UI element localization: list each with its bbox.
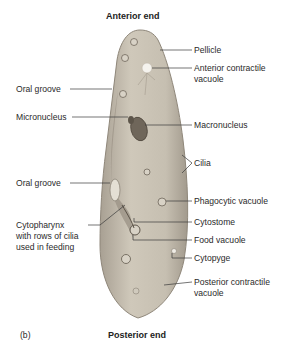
label-cytopharynx-3: used in feeding [16,242,74,252]
label-oral-groove-top: Oral groove [16,84,61,94]
phagocytic-vacuole-shape [158,198,166,206]
oral-groove-pocket [110,179,120,201]
label-posterior-contractile-vacuole-1: Posterior contractile [194,277,270,287]
label-pellicle: Pellicle [194,45,221,55]
label-cytopharynx-1: Cytopharynx [16,220,64,230]
label-anterior-contractile-vacuole-2: vacuole [194,74,224,84]
food-vacuole-shape [130,225,140,235]
label-posterior-contractile-vacuole-2: vacuole [194,288,224,298]
micronucleus-shape [128,116,134,124]
label-anterior-contractile-vacuole-1: Anterior contractile [194,63,266,73]
label-food-vacuole: Food vacuole [194,235,246,245]
label-cytopyge: Cytopyge [194,253,230,263]
label-micronucleus: Micronucleus [16,112,67,122]
label-cytostome: Cytostome [194,217,235,227]
label-phagocytic-vacuole: Phagocytic vacuole [194,196,268,206]
label-cytopharynx-2: with rows of cilia [16,231,79,241]
cytopyge-shape [172,249,177,254]
label-macronucleus: Macronucleus [194,120,248,130]
label-cilia: Cilia [194,158,211,168]
cell-body [100,30,188,318]
paramecium-illustration [0,0,285,349]
panel-label: (b) [20,330,31,340]
label-oral-groove-mid: Oral groove [16,178,61,188]
posterior-end-title: Posterior end [108,330,166,340]
anterior-contractile-vacuole-shape [142,63,152,73]
anterior-end-title: Anterior end [106,11,160,21]
